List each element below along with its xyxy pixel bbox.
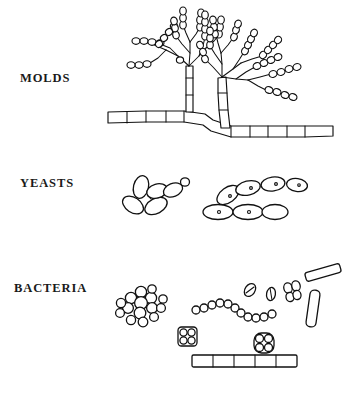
conidia-chain	[252, 52, 283, 70]
bacteria-group	[116, 263, 342, 367]
diplobacilli	[283, 280, 302, 302]
diagram-artwork	[0, 0, 357, 393]
conidia-chain	[264, 86, 298, 102]
sarcina-packet-round	[254, 333, 274, 353]
conidia-chain	[207, 27, 214, 49]
conidia-chain	[240, 28, 258, 56]
molds-group	[108, 7, 333, 137]
filamentous-bacterium	[192, 355, 297, 367]
conidiophore-stalk-left	[186, 66, 193, 112]
yeasts-group	[119, 174, 308, 219]
conidium	[176, 57, 183, 63]
single-bacilli	[242, 281, 277, 301]
microbial-morphology-figure: MOLDS YEASTS BACTERIA	[0, 0, 357, 393]
bacillus	[266, 287, 277, 302]
conidiophore-stalk-right	[218, 77, 230, 128]
large-rod	[305, 289, 320, 327]
conidia-chain	[127, 61, 151, 69]
conidia-chains	[127, 7, 302, 101]
budding-yeast-cluster	[119, 174, 189, 218]
sarcina-packet-square	[178, 327, 197, 346]
streptococcus-chain	[192, 299, 276, 322]
large-rod	[304, 263, 341, 282]
bacillus	[242, 281, 258, 298]
conidia-chain	[268, 63, 302, 79]
conidia-chain	[180, 7, 187, 29]
conidia-chain	[230, 19, 243, 41]
staphylococcus-cluster	[116, 285, 168, 327]
pseudohypha-chain	[203, 175, 308, 219]
conidia-chain	[170, 17, 180, 40]
